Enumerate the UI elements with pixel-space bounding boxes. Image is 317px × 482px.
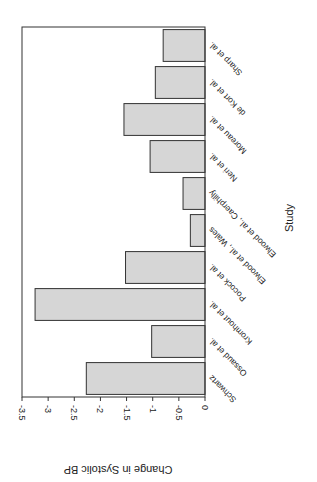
category-axis: SchwartzOssaud et al.Kromhout et al.Poco… <box>206 40 278 405</box>
category-label: Moreau et al. <box>206 114 248 156</box>
bar <box>35 289 205 321</box>
bar <box>155 67 205 99</box>
category-label: Neri et al. <box>206 151 239 184</box>
tick-label: -2.5 <box>69 405 79 421</box>
category-label: Sharp et al. <box>206 40 244 78</box>
tick-label: -0.5 <box>174 405 184 421</box>
category-label: Elwood et al., Caerphilly <box>206 188 278 260</box>
tick-label: 0 <box>200 405 210 410</box>
bar <box>190 215 205 247</box>
category-label: Schwartz <box>206 373 238 405</box>
bar <box>152 326 205 358</box>
bar <box>86 363 205 395</box>
tick-label: -1 <box>148 405 158 413</box>
tick-label: -1.5 <box>122 405 132 421</box>
tick-label: -3 <box>43 405 53 413</box>
tick-label: -3.5 <box>17 405 27 421</box>
bar <box>163 30 205 62</box>
bars-group <box>35 30 205 395</box>
category-label: de Kort et al. <box>206 77 247 118</box>
value-axis: -3.5-3-2.5-2-1.5-1-0.50 <box>17 397 210 421</box>
bar-chart: -3.5-3-2.5-2-1.5-1-0.50 SchwartzOssaud e… <box>0 0 317 482</box>
bar <box>124 104 205 136</box>
x-axis-title: Study <box>283 203 295 232</box>
y-axis-title: Change in Systolic BP <box>64 464 173 476</box>
bar <box>150 141 205 173</box>
tick-label: -2 <box>95 405 105 413</box>
bar <box>183 178 205 210</box>
bar <box>126 252 205 284</box>
